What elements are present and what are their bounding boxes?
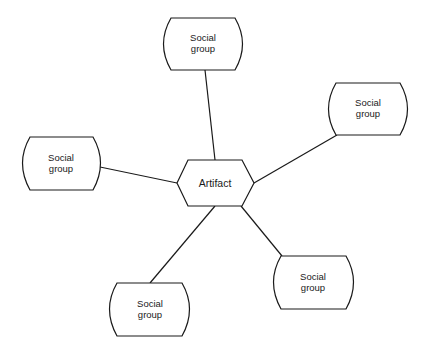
edge-artifact-right (254, 135, 337, 183)
social-group-top-label: Social group (190, 32, 216, 54)
social-group-bottom-left-label: Social group (137, 298, 163, 320)
social-group-left-label: Social group (48, 152, 74, 174)
edge-artifact-left (100, 167, 177, 183)
social-group-right-label: Social group (355, 97, 381, 119)
edge-artifact-bottom-right (241, 206, 282, 256)
social-group-bottom-right-label: Social group (300, 271, 326, 293)
edge-artifact-top (205, 70, 215, 160)
edge-artifact-bottom-left (150, 206, 215, 283)
artifact-label: Artifact (199, 178, 232, 189)
